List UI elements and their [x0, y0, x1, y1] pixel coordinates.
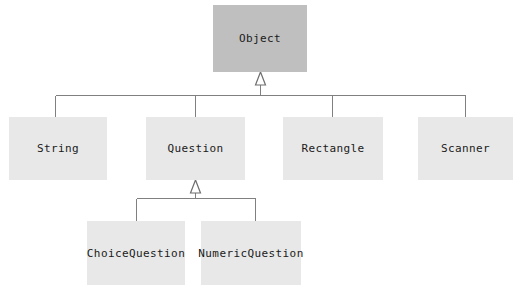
class-node-object[interactable]: Object — [213, 5, 307, 72]
class-label-numeric-question: NumericQuestion — [198, 247, 303, 260]
class-node-rectangle[interactable]: Rectangle — [283, 117, 383, 180]
class-node-question[interactable]: Question — [146, 117, 245, 180]
class-node-numeric-question[interactable]: NumericQuestion — [201, 221, 301, 285]
inheritance-arrowhead-question — [191, 180, 201, 193]
inheritance-arrowhead-object — [256, 72, 266, 85]
class-label-rectangle: Rectangle — [301, 142, 364, 155]
class-label-scanner: Scanner — [441, 142, 490, 155]
class-label-choice-question: ChoiceQuestion — [87, 247, 185, 260]
class-node-choice-question[interactable]: ChoiceQuestion — [87, 221, 185, 285]
class-node-string[interactable]: String — [9, 117, 107, 180]
class-node-scanner[interactable]: Scanner — [418, 117, 513, 180]
class-label-object: Object — [239, 32, 281, 45]
class-diagram-canvas: Object String Question Rectangle Scanner… — [0, 0, 522, 289]
class-label-question: Question — [167, 142, 223, 155]
class-label-string: String — [37, 142, 79, 155]
